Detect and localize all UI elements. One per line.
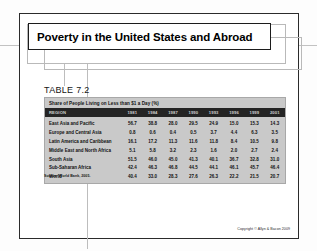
table-cell-value: 27.6 [183, 172, 203, 183]
table-cell-region: Middle East and North Africa [45, 146, 122, 155]
table-cell-value: 20.7 [265, 172, 285, 183]
table-cell-value: 5.8 [142, 146, 162, 155]
table-cell-value: 24.9 [204, 117, 224, 128]
table-cell-value: 6.3 [244, 128, 264, 137]
table-cell-value: 14.3 [265, 117, 285, 128]
copyright-notice: Copyright © Allyn & Bacon 2009 [237, 227, 290, 231]
table-cell-value: 28.0 [163, 117, 183, 128]
guide-line-vertical-left [64, 64, 65, 86]
table-cell-value: 33.0 [142, 172, 162, 183]
table-cell-value: 51.5 [122, 155, 142, 164]
table-cell-value: 3.5 [265, 128, 285, 137]
table-cell-value: 2.0 [224, 146, 244, 155]
table-cell-value: 36.7 [224, 155, 244, 164]
table-cell-value: 8.4 [224, 137, 244, 146]
table-cell-value: 38.8 [142, 117, 162, 128]
table-cell-value: 0.6 [142, 128, 162, 137]
table-cell-value: 42.4 [122, 163, 142, 172]
table-cell-region: Europe and Central Asia [45, 128, 122, 137]
table-cell-region: Sub-Saharan Africa [45, 163, 122, 172]
table-cell-value: 28.3 [163, 172, 183, 183]
table-cell-value: 9.8 [265, 137, 285, 146]
table-row: South Asia51.546.045.041.340.136.732.831… [45, 155, 285, 164]
table-cell-value: 46.1 [224, 163, 244, 172]
table-cell-value: 2.4 [265, 146, 285, 155]
column-header-1999: 1999 [244, 108, 264, 117]
table-header-row: REGION 1981 1984 1987 1990 1993 1996 199… [45, 108, 285, 117]
table-header: REGION 1981 1984 1987 1990 1993 1996 199… [45, 108, 285, 117]
column-header-1981: 1981 [122, 108, 142, 117]
column-header-region: REGION [45, 108, 122, 117]
table-cell-value: 15.3 [244, 117, 264, 128]
table-cell-value: 26.3 [204, 172, 224, 183]
table-cell-value: 5.1 [122, 146, 142, 155]
slide-title-box: Poverty in the United States and Abroad [28, 23, 271, 50]
table-cell-value: 46.0 [142, 155, 162, 164]
table-cell-region: South Asia [45, 155, 122, 164]
table-cell-value: 2.7 [244, 146, 264, 155]
table-cell-value: 29.5 [183, 117, 203, 128]
table-caption: Share of People Living on Less than $1 a… [45, 98, 285, 108]
table-cell-value: 40.4 [122, 172, 142, 183]
table-cell-region: Latin America and Caribbean [45, 137, 122, 146]
table-row: Latin America and Caribbean16.117.211.31… [45, 137, 285, 146]
slide-title: Poverty in the United States and Abroad [29, 31, 253, 43]
table-cell-value: 46.3 [142, 163, 162, 172]
column-header-2001: 2001 [265, 108, 285, 117]
column-header-1996: 1996 [224, 108, 244, 117]
column-header-1984: 1984 [142, 108, 162, 117]
table-cell-value: 16.1 [122, 137, 142, 146]
table-cell-value: 40.1 [204, 155, 224, 164]
table-row: Sub-Saharan Africa42.446.346.844.544.146… [45, 163, 285, 172]
table-number-label: TABLE 7.2 [44, 85, 90, 95]
table-cell-value: 0.4 [163, 128, 183, 137]
table-cell-value: 22.2 [224, 172, 244, 183]
presentation-slide: Poverty in the United States and Abroad … [19, 13, 299, 239]
poverty-data-table: REGION 1981 1984 1987 1990 1993 1996 199… [45, 108, 285, 183]
table-cell-value: 15.0 [224, 117, 244, 128]
table-cell-value: 45.0 [163, 155, 183, 164]
data-table-block: Share of People Living on Less than $1 a… [44, 97, 286, 184]
source-note: Source: World Bank, 2005. [44, 174, 91, 178]
table-cell-value: 11.6 [183, 137, 203, 146]
column-header-1990: 1990 [183, 108, 203, 117]
table-cell-value: 46.8 [163, 163, 183, 172]
table-row: Europe and Central Asia0.80.60.40.53.74.… [45, 128, 285, 137]
screenshot-canvas: Poverty in the United States and Abroad … [0, 0, 317, 251]
table-cell-value: 46.4 [265, 163, 285, 172]
column-header-1987: 1987 [163, 108, 183, 117]
table-row: East Asia and Pacific56.738.828.029.524.… [45, 117, 285, 128]
table-cell-value: 21.5 [244, 172, 264, 183]
table-cell-value: 1.6 [204, 146, 224, 155]
table-cell-value: 31.0 [265, 155, 285, 164]
table-cell-value: 45.7 [244, 163, 264, 172]
table-cell-value: 0.8 [122, 128, 142, 137]
table-cell-value: 0.5 [183, 128, 203, 137]
table-cell-value: 10.5 [244, 137, 264, 146]
table-cell-value: 56.7 [122, 117, 142, 128]
table-cell-value: 4.4 [224, 128, 244, 137]
table-cell-value: 3.2 [163, 146, 183, 155]
table-cell-value: 41.3 [183, 155, 203, 164]
column-header-1993: 1993 [204, 108, 224, 117]
table-cell-value: 3.7 [204, 128, 224, 137]
table-cell-value: 32.8 [244, 155, 264, 164]
table-cell-value: 11.8 [204, 137, 224, 146]
table-cell-value: 2.3 [183, 146, 203, 155]
table-cell-value: 17.2 [142, 137, 162, 146]
table-cell-region: East Asia and Pacific [45, 117, 122, 128]
table-cell-value: 44.1 [204, 163, 224, 172]
table-cell-value: 44.5 [183, 163, 203, 172]
table-row: Middle East and North Africa5.15.83.22.3… [45, 146, 285, 155]
table-cell-value: 11.3 [163, 137, 183, 146]
